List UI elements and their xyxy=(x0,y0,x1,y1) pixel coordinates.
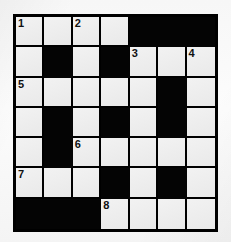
clue-number: 3 xyxy=(132,47,138,60)
open-cell[interactable] xyxy=(101,138,129,168)
blocked-cell xyxy=(44,138,72,168)
open-cell[interactable]: 6 xyxy=(73,138,101,168)
open-cell[interactable] xyxy=(44,17,72,47)
open-cell[interactable] xyxy=(130,108,158,138)
open-cell[interactable] xyxy=(187,78,215,108)
open-cell[interactable]: 8 xyxy=(101,199,129,229)
clue-number: 2 xyxy=(75,17,81,30)
open-cell[interactable]: 3 xyxy=(130,47,158,77)
open-cell[interactable]: 5 xyxy=(16,78,44,108)
open-cell[interactable] xyxy=(73,47,101,77)
open-cell[interactable] xyxy=(73,168,101,198)
open-cell[interactable] xyxy=(187,168,215,198)
blocked-cell xyxy=(101,108,129,138)
open-cell[interactable] xyxy=(158,138,186,168)
blocked-cell xyxy=(130,17,158,47)
open-cell[interactable] xyxy=(101,17,129,47)
blocked-cell xyxy=(101,168,129,198)
open-cell[interactable] xyxy=(187,108,215,138)
blocked-cell xyxy=(44,108,72,138)
blocked-cell xyxy=(16,199,44,229)
blocked-cell xyxy=(187,17,215,47)
crossword-puzzle: 12345678 xyxy=(13,14,218,232)
open-cell[interactable] xyxy=(130,78,158,108)
blocked-cell xyxy=(158,78,186,108)
open-cell[interactable] xyxy=(73,78,101,108)
blocked-cell xyxy=(158,108,186,138)
blocked-cell xyxy=(101,47,129,77)
clue-number: 4 xyxy=(189,47,195,60)
open-cell[interactable]: 1 xyxy=(16,17,44,47)
open-cell[interactable] xyxy=(16,138,44,168)
open-cell[interactable] xyxy=(73,108,101,138)
blocked-cell xyxy=(44,47,72,77)
open-cell[interactable]: 4 xyxy=(187,47,215,77)
blocked-cell xyxy=(158,17,186,47)
open-cell[interactable]: 2 xyxy=(73,17,101,47)
clue-number: 1 xyxy=(18,17,24,30)
open-cell[interactable] xyxy=(158,199,186,229)
crossword-grid: 12345678 xyxy=(13,14,218,232)
open-cell[interactable] xyxy=(187,199,215,229)
open-cell[interactable] xyxy=(158,47,186,77)
clue-number: 7 xyxy=(18,168,24,181)
open-cell[interactable] xyxy=(130,138,158,168)
blocked-cell xyxy=(73,199,101,229)
blocked-cell xyxy=(158,168,186,198)
open-cell[interactable] xyxy=(130,168,158,198)
clue-number: 8 xyxy=(103,199,109,212)
open-cell[interactable] xyxy=(187,138,215,168)
open-cell[interactable] xyxy=(44,78,72,108)
clue-number: 6 xyxy=(75,138,81,151)
open-cell[interactable] xyxy=(44,168,72,198)
blocked-cell xyxy=(44,199,72,229)
open-cell[interactable] xyxy=(101,78,129,108)
open-cell[interactable] xyxy=(16,47,44,77)
open-cell[interactable] xyxy=(130,199,158,229)
open-cell[interactable] xyxy=(16,108,44,138)
clue-number: 5 xyxy=(18,78,24,91)
open-cell[interactable]: 7 xyxy=(16,168,44,198)
